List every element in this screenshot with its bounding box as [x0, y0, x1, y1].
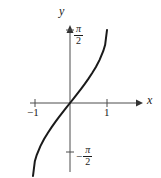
minus-sign-glyph: −	[76, 151, 82, 162]
y-tick-label-pi-over-two: π 2	[74, 24, 83, 46]
y-axis-label: y	[59, 5, 64, 17]
x-axis-label: x	[147, 94, 152, 106]
y-tick-label-negative-pi-over-two: − π 2	[76, 145, 92, 167]
pi-numerator-bottom: π	[84, 145, 91, 155]
x-tick-label-positive-one: 1	[104, 107, 110, 118]
pi-over-two-fraction-bottom: π 2	[83, 145, 92, 167]
inverse-sine-graph-figure: y x −1 1 π 2 − π 2	[0, 0, 161, 178]
y-axis-arrowhead	[67, 25, 74, 33]
x-tick-label-negative-one: −1	[27, 107, 39, 118]
pi-numerator-top: π	[75, 24, 82, 34]
two-denominator-bottom: 2	[84, 157, 91, 167]
two-denominator-top: 2	[75, 36, 82, 46]
x-axis-arrowhead	[136, 100, 143, 107]
